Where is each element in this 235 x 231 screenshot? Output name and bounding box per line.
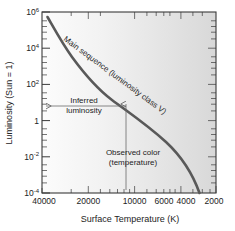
y-tick-label: 106: [26, 7, 39, 18]
observed-color-label: Observed color (temperature): [106, 148, 161, 167]
x-tick-label: 6000: [155, 196, 174, 206]
y-tick-label: 104: [26, 43, 39, 54]
x-tick-label: 4000: [177, 196, 196, 206]
inferred-luminosity-line1: Inferred: [70, 96, 98, 105]
y-tick-label: 1: [34, 116, 39, 126]
inferred-luminosity-label: Inferred luminosity: [66, 96, 102, 115]
x-tick-label: 40000: [32, 196, 56, 206]
chart-canvas: 106 104 102 1 10-2 10-4 40000 20000 1000…: [0, 0, 235, 231]
observed-color-line1: Observed color: [106, 148, 161, 157]
x-axis-tick-labels: 40000 20000 10000 6000 4000 2000: [32, 196, 224, 206]
observed-color-line2: (temperature): [109, 158, 158, 167]
x-tick-label: 20000: [76, 196, 100, 206]
y-tick-label: 10-2: [24, 151, 39, 162]
inferred-luminosity-line2: luminosity: [66, 106, 102, 115]
y-axis-title: Luminosity (Sun = 1): [4, 62, 14, 145]
x-tick-label: 2000: [205, 196, 224, 206]
x-tick-label: 10000: [123, 196, 147, 206]
y-tick-label: 102: [26, 79, 39, 90]
x-axis-title: Surface Temperature (K): [81, 214, 179, 224]
hr-diagram-figure: 106 104 102 1 10-2 10-4 40000 20000 1000…: [0, 0, 235, 231]
y-axis-tick-labels: 106 104 102 1 10-2 10-4: [24, 7, 39, 199]
